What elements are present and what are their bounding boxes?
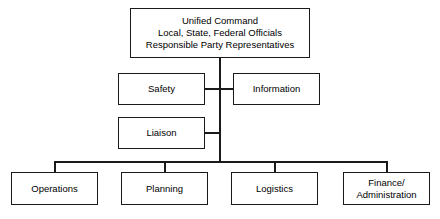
node-liaison[interactable]: Liaison bbox=[118, 117, 205, 149]
node-safety[interactable]: Safety bbox=[118, 73, 205, 105]
node-unified-command[interactable]: Unified Command Local, State, Federal Of… bbox=[130, 8, 310, 58]
planning-drop-connector bbox=[164, 161, 166, 172]
node-operations[interactable]: Operations bbox=[11, 172, 98, 205]
node-unified-command-label: Unified Command Local, State, Federal Of… bbox=[143, 15, 297, 51]
logistics-drop-connector bbox=[274, 161, 276, 172]
node-safety-label: Safety bbox=[145, 83, 178, 95]
node-information[interactable]: Information bbox=[233, 73, 320, 105]
node-logistics[interactable]: Logistics bbox=[231, 172, 318, 205]
node-planning-label: Planning bbox=[143, 183, 186, 195]
finance-administration-drop-connector bbox=[386, 161, 388, 172]
node-operations-label: Operations bbox=[28, 183, 80, 195]
node-planning[interactable]: Planning bbox=[121, 172, 208, 205]
operations-drop-connector bbox=[54, 161, 56, 172]
central-spine-connector bbox=[219, 58, 221, 162]
section-distribution-bar bbox=[54, 161, 387, 163]
node-finance-administration-label: Finance/ Administration bbox=[353, 177, 419, 200]
information-stub-connector bbox=[219, 88, 233, 90]
safety-stub-connector bbox=[205, 88, 219, 90]
org-chart: Unified Command Local, State, Federal Of… bbox=[0, 0, 440, 219]
node-liaison-label: Liaison bbox=[143, 127, 179, 139]
liaison-stub-connector bbox=[205, 132, 219, 134]
node-logistics-label: Logistics bbox=[253, 183, 296, 195]
node-information-label: Information bbox=[250, 83, 304, 95]
node-finance-administration[interactable]: Finance/ Administration bbox=[343, 172, 430, 205]
